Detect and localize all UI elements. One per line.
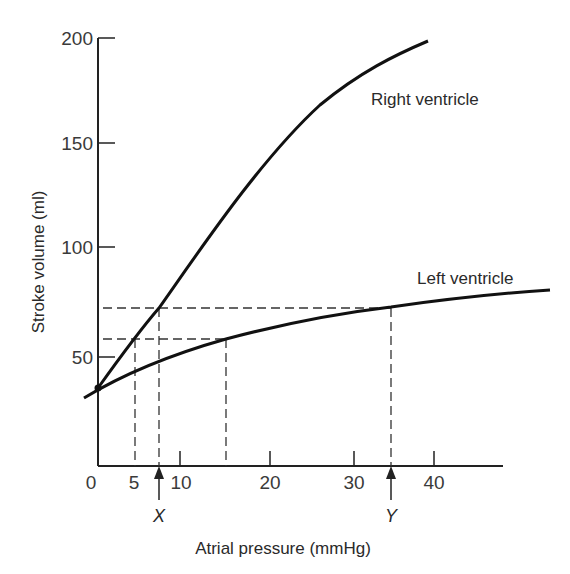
y-tick-label-200: 200 (61, 28, 93, 49)
arrow-up-icon (154, 466, 164, 479)
x-axis-label: Atrial pressure (mmHg) (195, 539, 371, 558)
marker-x-arrow (154, 466, 164, 500)
marker-x-label: X (152, 506, 166, 526)
x-tick-label-5: 5 (129, 472, 140, 493)
y-tick-label-50: 50 (72, 347, 93, 368)
x-tick-label-40: 40 (423, 472, 444, 493)
chart-canvas: 200 150 100 50 0 5 10 20 30 40 Right ven… (0, 0, 570, 574)
y-axis-label: Stroke volume (ml) (29, 191, 48, 334)
right-ventricle-label: Right ventricle (371, 90, 479, 109)
left-ventricle-curve (84, 290, 550, 398)
marker-y-label: Y (385, 506, 399, 526)
left-ventricle-label: Left ventricle (417, 269, 513, 288)
dashed-reference-lines (103, 308, 391, 466)
x-tick-label-20: 20 (259, 472, 280, 493)
x-tick-label-10: 10 (170, 472, 191, 493)
y-tick-label-100: 100 (61, 237, 93, 258)
x-tick-label-0: 0 (86, 472, 97, 493)
y-tick-label-150: 150 (61, 133, 93, 154)
arrow-up-icon (386, 466, 396, 479)
curve-origin-point (95, 385, 102, 392)
marker-y-arrow (386, 466, 396, 500)
x-tick-label-30: 30 (343, 472, 364, 493)
